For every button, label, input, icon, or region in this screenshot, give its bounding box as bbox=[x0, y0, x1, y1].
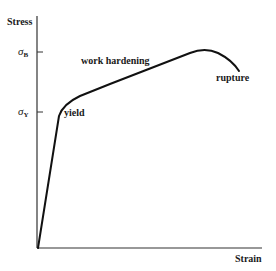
stress-strain-curve bbox=[38, 50, 239, 248]
sigma-b-label: σB bbox=[18, 45, 28, 59]
stress-strain-diagram: Stress Strain σB σY yield work hardening… bbox=[0, 0, 276, 271]
rupture-annotation: rupture bbox=[216, 72, 250, 83]
y-axis-label: Stress bbox=[7, 16, 32, 27]
work-hardening-annotation: work hardening bbox=[81, 55, 150, 66]
sigma-y-label: σY bbox=[18, 105, 29, 119]
yield-annotation: yield bbox=[64, 107, 85, 118]
x-axis-label: Strain bbox=[235, 253, 262, 264]
